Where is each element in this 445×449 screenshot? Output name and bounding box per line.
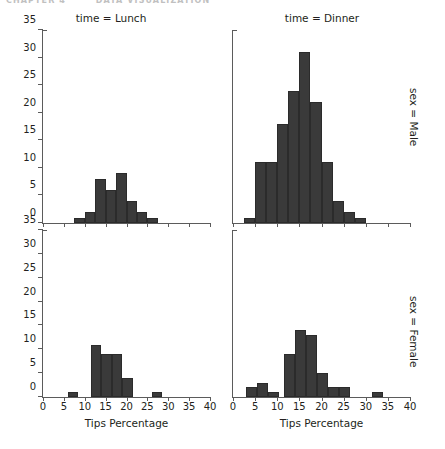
panel-dinner-female: 0510152025303540 Tips Percentage sex = F… xyxy=(222,224,422,449)
x-axis-tick-label: 5 xyxy=(61,402,67,412)
histogram-bar xyxy=(137,212,147,223)
histogram-bar xyxy=(295,330,306,397)
y-axis-tick xyxy=(38,84,43,85)
histogram-bar xyxy=(328,387,339,397)
x-axis-tick-label: 20 xyxy=(120,402,133,412)
y-axis-tick xyxy=(38,301,43,302)
y-axis-tick-label: 15 xyxy=(23,310,36,320)
y-axis-tick xyxy=(38,277,43,278)
y-axis-tick-label: 10 xyxy=(23,153,36,163)
x-axis-tick-label: 20 xyxy=(315,402,328,412)
histogram-bar xyxy=(122,378,132,397)
histogram-bar xyxy=(339,387,350,397)
x-axis-tick-label: 35 xyxy=(382,402,395,412)
row-label-male: sex = Male xyxy=(408,88,420,146)
histogram-bar xyxy=(299,52,310,223)
histogram-bar xyxy=(322,162,333,223)
y-axis-tick xyxy=(38,57,43,58)
x-axis-tick-label: 30 xyxy=(359,402,372,412)
y-axis-tick-label: 5 xyxy=(30,180,36,190)
histogram-bar xyxy=(372,392,383,397)
y-axis-tick xyxy=(38,167,43,168)
x-axis-tick-label: 10 xyxy=(271,402,284,412)
y-axis-tick-label: 20 xyxy=(23,98,36,108)
histogram-bar xyxy=(284,354,295,397)
histogram-bar xyxy=(127,201,137,223)
histogram-bar xyxy=(244,218,255,224)
bars-lunch-male xyxy=(43,30,210,223)
histogram-bar xyxy=(152,392,162,397)
row-label-female: sex = Female xyxy=(408,296,420,367)
header-chapter: CHAPTER 4 xyxy=(6,0,66,5)
histogram-bar xyxy=(355,218,366,224)
y-axis-tick-label: 35 xyxy=(23,215,36,225)
bars-dinner-female xyxy=(233,230,410,397)
panel-lunch-male: time = Lunch 05101520253035 xyxy=(0,12,222,224)
histogram-bar xyxy=(95,179,105,223)
bars-lunch-female xyxy=(43,230,210,397)
y-axis-tick-label: 15 xyxy=(23,125,36,135)
header-section: DATA VISUALIZATION xyxy=(96,0,211,5)
panel-lunch-female: 05101520253035 0510152025303540 Tips Per… xyxy=(0,224,222,449)
histogram-bar xyxy=(246,387,257,397)
x-axis-tick-label: 10 xyxy=(78,402,91,412)
running-header: CHAPTER 4 DATA VISUALIZATION xyxy=(6,0,306,6)
y-axis-tick-label: 0 xyxy=(30,382,36,392)
x-axis-tick-label: 35 xyxy=(183,402,196,412)
histogram-bar xyxy=(116,173,126,223)
y-axis-tick xyxy=(38,139,43,140)
panel-dinner-male: time = Dinner sex = Male xyxy=(222,12,422,224)
x-axis-tick-label: 0 xyxy=(230,402,236,412)
x-axis-tick-label: 5 xyxy=(252,402,258,412)
y-axis-tick xyxy=(38,194,43,195)
bars-dinner-male xyxy=(233,30,410,223)
histogram-bar xyxy=(74,218,84,224)
y-axis-tick xyxy=(38,253,43,254)
y-axis-tick-label: 5 xyxy=(30,358,36,368)
histogram-bar xyxy=(106,190,116,223)
y-axis-tick-label: 25 xyxy=(23,263,36,273)
histogram-bar xyxy=(310,102,321,223)
y-axis-tick xyxy=(38,29,43,30)
histogram-bar xyxy=(257,383,268,397)
histogram-bar xyxy=(306,335,317,397)
y-axis-tick xyxy=(38,112,43,113)
y-axis-tick xyxy=(38,324,43,325)
histogram-bar xyxy=(266,162,277,223)
histogram-bar xyxy=(112,354,122,397)
x-axis-title-right: Tips Percentage xyxy=(233,417,410,429)
x-axis-tick-label: 15 xyxy=(293,402,306,412)
histogram-bar xyxy=(277,124,288,223)
y-axis-tick-label: 25 xyxy=(23,70,36,80)
y-axis-tick xyxy=(38,348,43,349)
histogram-bar xyxy=(255,162,266,223)
plot-area-lunch-female: 05101520253035 0510152025303540 Tips Per… xyxy=(42,230,210,398)
x-axis-tick-label: 0 xyxy=(40,402,46,412)
x-axis-tick-label: 25 xyxy=(337,402,350,412)
histogram-bar xyxy=(333,201,344,223)
histogram-bar xyxy=(91,345,101,397)
y-axis-tick-label: 30 xyxy=(23,239,36,249)
y-axis-tick-label: 30 xyxy=(23,43,36,53)
plot-area-dinner-male xyxy=(232,30,410,224)
y-axis-tick-label: 10 xyxy=(23,334,36,344)
histogram-bar xyxy=(317,373,328,397)
plot-area-lunch-male: 05101520253035 xyxy=(42,30,210,224)
histogram-bar xyxy=(101,354,111,397)
y-axis-tick-label: 35 xyxy=(23,15,36,25)
y-axis-tick xyxy=(38,229,43,230)
panel-title-dinner: time = Dinner xyxy=(222,12,422,24)
x-axis-tick-label: 40 xyxy=(404,402,417,412)
x-axis-tick-label: 15 xyxy=(99,402,112,412)
x-axis-tick-label: 30 xyxy=(162,402,175,412)
histogram-bar xyxy=(147,218,157,224)
x-axis-tick-label: 40 xyxy=(204,402,217,412)
histogram-bar xyxy=(85,212,95,223)
histogram-bar xyxy=(288,91,299,223)
facet-grid-figure: time = Lunch 05101520253035 time = Dinne… xyxy=(0,12,445,449)
histogram-bar xyxy=(68,392,78,397)
y-axis-tick-label: 20 xyxy=(23,287,36,297)
y-axis-tick xyxy=(38,372,43,373)
histogram-bar xyxy=(344,212,355,223)
x-axis-title-left: Tips Percentage xyxy=(43,417,210,429)
